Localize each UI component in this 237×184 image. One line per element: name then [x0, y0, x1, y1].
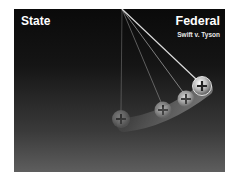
pendulum-string	[122, 9, 161, 102]
slide-panel: State Federal Swift v. Tyson	[14, 9, 225, 172]
pendulum-ball	[178, 91, 195, 108]
pendulum-ball	[112, 110, 130, 128]
pendulum-ball	[193, 77, 212, 96]
case-subtitle: Swift v. Tyson	[177, 31, 220, 38]
pendulum-ball	[155, 102, 172, 119]
state-label: State	[21, 14, 50, 28]
pendulum-string	[121, 9, 122, 110]
pendulum-string	[122, 9, 183, 92]
federal-label: Federal	[176, 14, 220, 28]
